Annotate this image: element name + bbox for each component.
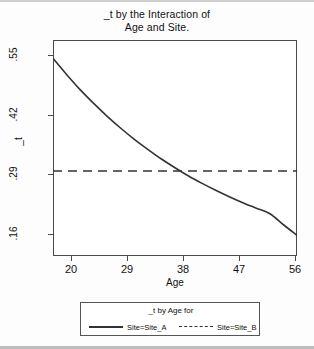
x-tick-label: 20	[51, 263, 91, 275]
series-line-site-a	[53, 58, 297, 235]
plot-series-canvas	[53, 40, 297, 256]
x-tick-label: 56	[275, 263, 314, 275]
legend-key-solid-line-icon	[89, 323, 123, 331]
x-tick-label: 29	[107, 263, 147, 275]
chart-legend: _t by Age for Site=Site_A Site=Site_B	[80, 302, 260, 336]
y-tick-label: .29	[8, 152, 19, 196]
y-tick-mark	[48, 174, 53, 175]
x-tick-mark	[71, 256, 72, 261]
x-tick-mark	[239, 256, 240, 261]
y-tick-mark	[48, 55, 53, 56]
x-tick-mark	[183, 256, 184, 261]
x-tick-mark	[295, 256, 296, 261]
x-tick-label: 47	[219, 263, 259, 275]
y-tick-label: .55	[8, 33, 19, 77]
page-edge-top	[0, 0, 314, 2]
legend-key-dashed-line-icon	[179, 323, 213, 331]
legend-entry-site-a[interactable]: Site=Site_A	[89, 321, 166, 333]
x-axis-title: Age	[53, 277, 297, 288]
chart-title-line-2: Age and Site.	[0, 21, 314, 34]
y-tick-mark	[48, 115, 53, 116]
legend-label-site-b: Site=Site_B	[217, 323, 256, 332]
y-tick-label: .16	[8, 212, 19, 256]
x-tick-label: 38	[163, 263, 203, 275]
y-tick-mark	[48, 234, 53, 235]
legend-label-site-a: Site=Site_A	[127, 323, 166, 332]
x-tick-mark	[127, 256, 128, 261]
chart-title: _t by the Interaction of Age and Site.	[0, 8, 314, 34]
chart-title-line-1: _t by the Interaction of	[0, 8, 314, 21]
chart-figure: _t by the Interaction of Age and Site. .…	[0, 0, 314, 349]
legend-entry-site-b[interactable]: Site=Site_B	[179, 321, 256, 333]
legend-title: _t by Age for	[81, 306, 261, 315]
y-axis-title: _t	[13, 130, 24, 154]
